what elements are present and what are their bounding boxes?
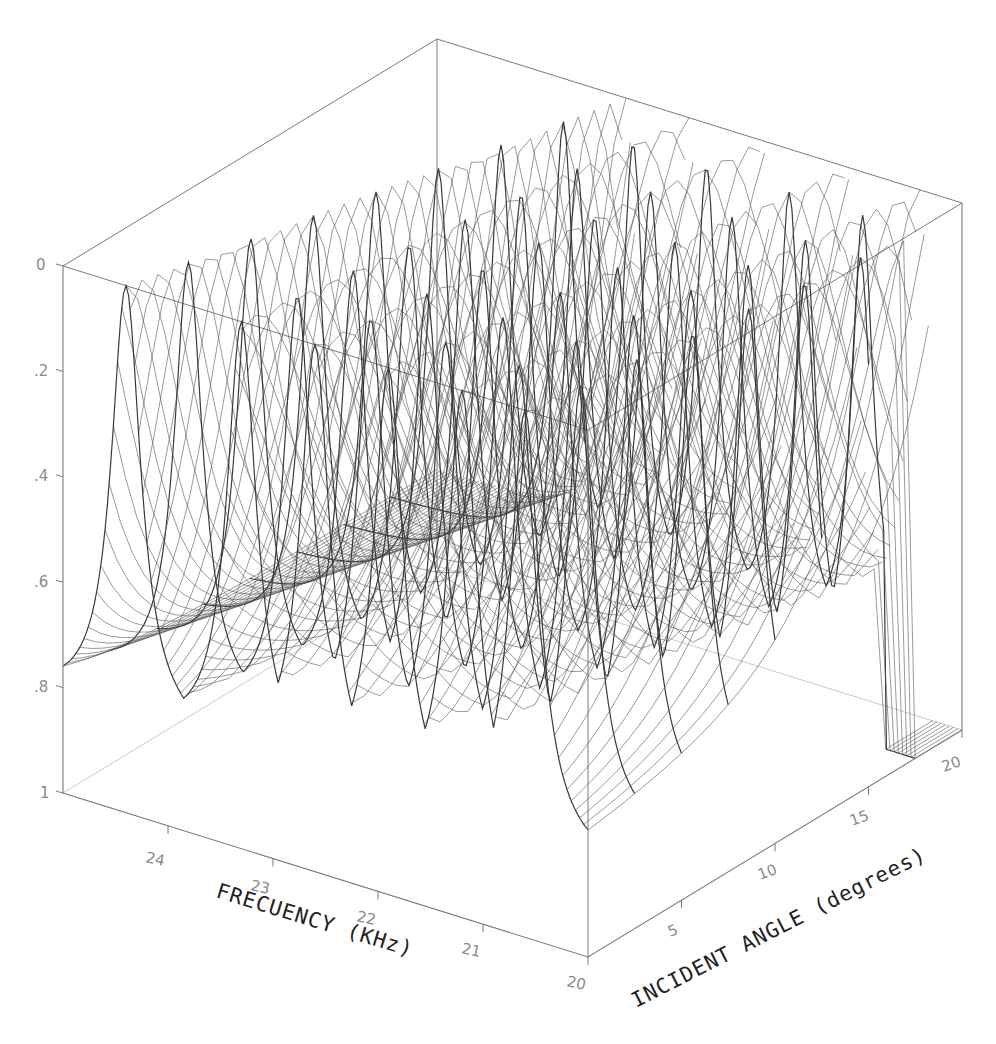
mesh-line-frequency <box>784 566 831 598</box>
z-tick-3: .6 <box>34 573 48 591</box>
mesh-line-frequency <box>84 639 131 643</box>
z-tick-1: .2 <box>34 362 48 380</box>
mesh-line-frequency <box>865 209 912 320</box>
mesh-line-frequency <box>97 592 144 625</box>
mesh-line-frequency <box>641 583 688 599</box>
mesh-line-frequency <box>189 659 236 693</box>
y-tick-20: 20 <box>939 752 963 775</box>
mesh-line-frequency <box>580 777 627 818</box>
mesh-line-frequency <box>810 230 857 293</box>
mesh-line-frequency <box>421 630 468 663</box>
mesh-line-frequency <box>329 192 376 435</box>
mesh-line-frequency <box>198 252 245 365</box>
mesh-line-frequency <box>724 608 771 687</box>
mesh-line-frequency <box>260 404 307 556</box>
mesh-line-frequency <box>160 569 207 604</box>
mesh-line-frequency <box>571 752 618 801</box>
mesh-line-frequency <box>618 687 665 752</box>
mesh-line-frequency <box>239 327 286 423</box>
z-tick-mark <box>56 580 63 582</box>
mesh-line-frequency <box>130 280 177 393</box>
surface-plot: 0 .2 .4 .6 .8 1 24 23 22 21 20 FRECUENCY… <box>0 0 996 1044</box>
box-edge <box>63 39 962 266</box>
mesh-line-frequency <box>776 576 823 591</box>
mesh-line-frequency <box>563 711 610 775</box>
z-tick-5: 1 <box>40 784 50 802</box>
mesh-line-frequency <box>224 546 271 582</box>
mesh-line-frequency <box>139 269 186 433</box>
mesh-line-frequency <box>312 217 359 424</box>
mesh-line-frequency <box>635 753 682 794</box>
mesh-line-frequency <box>88 627 135 637</box>
mesh-line-frequency <box>843 515 890 751</box>
mesh-line-frequency <box>673 664 720 729</box>
mesh-line-frequency <box>728 640 775 705</box>
z-tick-mark <box>56 369 63 371</box>
mesh-line-frequency <box>147 301 194 543</box>
z-tick-mark <box>56 791 63 793</box>
mesh-line-frequency <box>367 272 414 442</box>
mesh-line-frequency <box>793 182 840 251</box>
mesh-line-frequency <box>903 726 950 754</box>
z-tick-0: 0 <box>36 256 46 274</box>
mesh-line-frequency <box>907 727 954 755</box>
z-tick-mark <box>56 264 63 266</box>
z-axis: 0 .2 .4 .6 .8 1 <box>34 256 50 802</box>
y-axis: 5 10 15 20 INCIDENT ANGLE (degrees) <box>627 752 963 1012</box>
z-tick-2: .4 <box>34 467 48 485</box>
mesh-line-frequency <box>353 646 400 703</box>
mesh-line-frequency <box>416 559 463 679</box>
mesh-line-frequency <box>584 786 631 824</box>
mesh-line-frequency <box>646 235 693 388</box>
mesh-line-frequency <box>181 636 228 693</box>
mesh-line-frequency <box>877 234 924 458</box>
mesh-line-frequency <box>588 794 635 830</box>
x-tick-21: 21 <box>460 939 482 961</box>
mesh-line-frequency <box>626 728 673 777</box>
mesh-line-frequency <box>134 275 181 367</box>
plot-box-front-edges <box>56 203 962 965</box>
mesh-line-frequency <box>389 176 436 372</box>
mesh-line-frequency <box>156 590 203 611</box>
mesh-line-frequency <box>638 131 685 198</box>
mesh-line-frequency <box>356 501 403 528</box>
mesh-line-frequency <box>357 669 404 696</box>
mesh-line-frequency <box>611 329 658 484</box>
mesh-line-frequency <box>303 280 350 339</box>
mesh-line-frequency <box>682 705 729 754</box>
mesh-line-frequency <box>550 591 597 707</box>
x-axis-title: FRECUENCY (KHz) <box>214 879 417 962</box>
x-tick-20: 20 <box>565 972 587 994</box>
mesh-line-frequency <box>818 287 865 477</box>
y-tick-15: 15 <box>847 806 871 829</box>
mesh-line-frequency <box>797 383 844 515</box>
mesh-line-frequency <box>486 516 533 553</box>
mesh-line-frequency <box>151 365 198 581</box>
mesh-line-frequency <box>747 233 794 450</box>
mesh-line-frequency <box>105 530 152 605</box>
mesh-line-frequency <box>338 552 385 557</box>
mesh-line-frequency <box>669 632 716 710</box>
mesh-line-frequency <box>679 232 726 289</box>
mesh-line-frequency <box>898 725 945 753</box>
mesh-line-frequency <box>596 380 643 502</box>
mesh-line-frequency <box>869 202 916 297</box>
mesh-line-frequency <box>882 326 929 511</box>
mesh-line-frequency <box>282 485 329 561</box>
mesh-line-frequency <box>350 290 397 413</box>
y-tick-5: 5 <box>665 921 680 941</box>
mesh-line-frequency <box>530 526 577 642</box>
mesh-line-frequency <box>358 258 405 305</box>
mesh-line-frequency <box>206 656 253 660</box>
mesh-line-frequency <box>266 217 313 434</box>
mesh-line-frequency <box>127 628 174 644</box>
mesh-line-frequency <box>380 186 427 331</box>
mesh-line-frequency <box>437 671 484 706</box>
mesh-line-frequency <box>218 585 265 623</box>
x-tick-24: 24 <box>144 848 166 870</box>
mesh-line-frequency <box>403 368 450 547</box>
mesh-line-frequency <box>63 650 110 666</box>
mesh-line-frequency <box>384 181 431 295</box>
mesh-line-frequency <box>714 147 761 264</box>
mesh-line-frequency <box>559 681 606 758</box>
